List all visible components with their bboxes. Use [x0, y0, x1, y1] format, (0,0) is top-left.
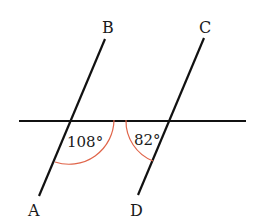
line-dc [138, 38, 204, 195]
line-ab [39, 39, 105, 196]
label-b: B [102, 18, 114, 37]
angle-label-right: 82° [134, 131, 161, 149]
geometry-diagram: B C A D 108° 82° [0, 0, 254, 217]
label-a: A [27, 201, 40, 217]
label-c: C [199, 18, 211, 37]
angle-label-left: 108° [67, 133, 103, 151]
label-d: D [130, 201, 143, 217]
